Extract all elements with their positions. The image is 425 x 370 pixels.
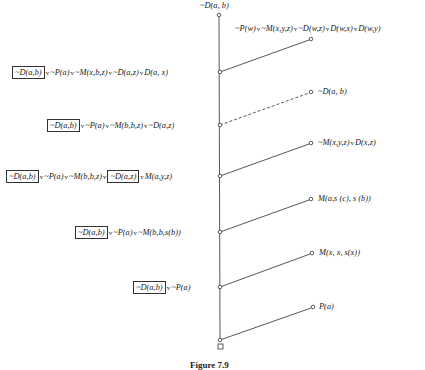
- literal: ~M(x,y,z): [318, 138, 350, 147]
- left-label-l4: ~D(a,b)v~P(a)v~M(b,b,s(b)): [75, 226, 181, 239]
- right-label-r5: M(x, x, s(x)): [319, 248, 360, 258]
- literal: ~M(b,b,z): [69, 172, 102, 181]
- node-l1: [218, 70, 222, 74]
- literal: ~D(a,z): [113, 68, 139, 77]
- right-label-r1: ~P(w)v~M(x,y,z)v~D(w,z)vD(w,x)vD(w,y): [235, 24, 381, 34]
- node-l5: [218, 285, 222, 289]
- edge-r4: [220, 200, 309, 232]
- edge-r3: [220, 144, 309, 176]
- node-root: [217, 13, 221, 17]
- literal: M(a,y,z): [145, 172, 172, 181]
- literal: D(a, x): [144, 68, 168, 77]
- right-label-r3: ~M(x,y,z)vD(x,z): [318, 138, 376, 148]
- node-l4: [218, 230, 222, 234]
- or-symbol: v: [354, 25, 358, 33]
- or-symbol: v: [140, 69, 144, 77]
- literal: ~P(a): [113, 228, 132, 237]
- left-label-l3: ~D(a,b)v~P(a)v~M(b,b,z)v~D(a,z)vM(a,y,z): [6, 170, 172, 183]
- literal: ~M(x,y,z): [261, 24, 293, 33]
- literal: D(x,z): [355, 138, 376, 147]
- literal: ~P(a): [171, 283, 190, 292]
- node-l2: [218, 123, 222, 127]
- node-r5: [310, 251, 314, 255]
- or-symbol: v: [103, 173, 107, 181]
- boxed-literal: ~D(a,b): [47, 119, 80, 132]
- or-symbol: v: [71, 69, 75, 77]
- literal: ~D(w,z): [298, 24, 324, 33]
- or-symbol: v: [140, 173, 144, 181]
- boxed-literal: ~D(a,z): [107, 170, 139, 183]
- edge-r6: [220, 308, 311, 340]
- literal: ~M(x,b,z): [75, 68, 107, 77]
- or-symbol: v: [351, 139, 355, 147]
- literal: D(w,x): [330, 24, 352, 33]
- right-label-r2: ~D(a, b): [318, 87, 347, 97]
- or-symbol: v: [46, 69, 50, 77]
- literal: D(w,y): [358, 24, 380, 33]
- literal: ~M(b,b,s(b)): [138, 228, 181, 237]
- figure-caption: Figure 7.9: [190, 360, 229, 370]
- or-symbol: v: [144, 122, 148, 130]
- or-symbol: v: [40, 173, 44, 181]
- edge-r5: [220, 254, 310, 287]
- literal: ~P(w): [235, 24, 256, 33]
- literal: ~M(b,b,z): [110, 121, 143, 130]
- or-symbol: v: [81, 122, 85, 130]
- edge-r1: [220, 40, 309, 72]
- left-label-l2: ~D(a,b)v~P(a)v~M(b,b,z)v~D(a,z): [47, 119, 174, 132]
- left-label-l5: ~D(a,b)v~P(a): [133, 281, 191, 294]
- node-r1: [309, 37, 313, 41]
- node-r3: [309, 141, 313, 145]
- node-r4: [309, 197, 313, 201]
- node-r6: [311, 305, 315, 309]
- empty-clause-icon: [218, 344, 223, 349]
- boxed-literal: ~D(a,b): [133, 281, 166, 294]
- or-symbol: v: [257, 25, 261, 33]
- node-r2: [309, 90, 313, 94]
- or-symbol: v: [109, 229, 113, 237]
- or-symbol: v: [65, 173, 69, 181]
- edge-r2-dashed: [220, 93, 309, 125]
- literal: ~P(a): [85, 121, 104, 130]
- or-symbol: v: [106, 122, 110, 130]
- boxed-literal: ~D(a,b): [12, 66, 45, 79]
- or-symbol: v: [134, 229, 138, 237]
- literal: ~P(a): [50, 68, 69, 77]
- or-symbol: v: [326, 25, 330, 33]
- root-label: ~D(a, b): [200, 1, 229, 11]
- node-l3: [218, 174, 222, 178]
- right-label-r6: P(a): [319, 302, 334, 312]
- right-label-r4: M(a,s (c), s (b)): [318, 194, 371, 204]
- literal: ~P(a): [44, 172, 63, 181]
- or-symbol: v: [294, 25, 298, 33]
- boxed-literal: ~D(a,b): [75, 226, 108, 239]
- or-symbol: v: [167, 284, 171, 292]
- boxed-literal: ~D(a,b): [6, 170, 39, 183]
- node-l6: [218, 338, 222, 342]
- literal: ~D(a,z): [148, 121, 174, 130]
- or-symbol: v: [109, 69, 113, 77]
- left-label-l1: ~D(a,b)v~P(a)v~M(x,b,z)v~D(a,z)vD(a, x): [12, 66, 168, 79]
